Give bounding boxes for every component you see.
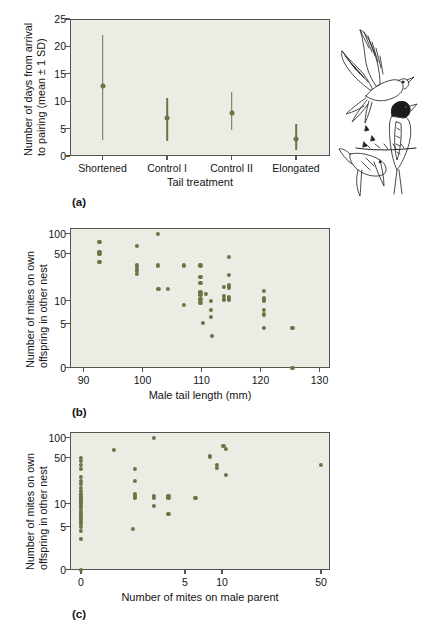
panel-c-y-axis-title-line1: Number of mites on own — [24, 453, 37, 570]
panel-a-ytick-20: 20 — [40, 40, 66, 52]
panel-a-xtick-elongated: Elongated — [272, 162, 319, 174]
panel-a-letter: (a) — [72, 196, 86, 208]
panel-c-y-axis-title-line2: offspring in other nest — [37, 453, 50, 570]
panel-a-ytick-mark-25 — [65, 18, 70, 19]
panel-c-ytick-mark-0 — [65, 569, 70, 570]
panel-a-xtick-mark-1 — [102, 156, 103, 160]
panel-a-xtick-mark-2 — [166, 156, 167, 160]
panel-a-xtick-shortened: Shortened — [78, 162, 126, 174]
panel-c-xtick-50: 50 — [315, 576, 327, 588]
data-point — [290, 366, 294, 370]
panel-a-ytick-5: 5 — [46, 123, 66, 135]
panel-a-x-axis-title: Tail treatment — [167, 176, 233, 188]
panel-b-letter: (b) — [72, 406, 87, 418]
panel-c-xtick-5: 5 — [182, 576, 188, 588]
panel-a-mean-control-i — [165, 115, 170, 120]
panel-b-xtick-130: 130 — [311, 374, 329, 386]
panel-b-xtick-110: 110 — [193, 374, 210, 386]
panel-b-ytick-mark-100 — [65, 233, 70, 234]
panel-b-ytick-5: 5 — [40, 318, 66, 330]
panel-a-ytick-mark-15 — [65, 73, 70, 74]
panel-a-mean-shortened — [100, 84, 105, 89]
panel-c-ytick-10: 10 — [40, 498, 66, 510]
panel-b-xtick-mark-130 — [319, 368, 320, 372]
panel-a-ytick-25: 25 — [40, 13, 66, 25]
panel-a-y-axis-title-line1: Number of days from arrival — [22, 23, 35, 156]
panel-c-ytick-50: 50 — [40, 452, 66, 464]
panel-b-ytick-mark-50 — [65, 253, 70, 254]
panel-c-ytick-5: 5 — [40, 521, 66, 533]
panel-c-xtick-10: 10 — [216, 576, 228, 588]
panel-b-xtick-90: 90 — [78, 374, 90, 386]
panel-c-ytick-0: 0 — [40, 564, 66, 576]
panel-b-ytick-mark-5 — [65, 323, 70, 324]
figure-container: Number of days from arrival to pairing (… — [0, 0, 424, 631]
panel-a-ytick-mark-5 — [65, 128, 70, 129]
panel-b-y-axis-title-line2: offspring in other nest — [37, 251, 50, 368]
panel-c-xtick-0: 0 — [78, 576, 84, 588]
panel-b-xtick-mark-100 — [142, 368, 143, 372]
panel-a-ytick-10: 10 — [40, 95, 66, 107]
panel-a-mean-control-ii — [229, 111, 234, 116]
panel-a-ytick-mark-10 — [65, 101, 70, 102]
panel-a-xtick-control-ii: Control II — [210, 162, 253, 174]
panel-c-ytick-mark-10 — [65, 503, 70, 504]
panel-c-ytick-mark-100 — [65, 437, 70, 438]
swallow-drawing-svg — [336, 18, 422, 198]
panel-c-plot-area — [70, 432, 330, 570]
panel-c-xtick-mark-5 — [184, 570, 185, 574]
data-point — [79, 568, 83, 572]
panel-b-ytick-50: 50 — [40, 248, 66, 260]
panel-a-ytick-mark-0 — [65, 155, 70, 156]
panel-a-xtick-mark-4 — [295, 156, 296, 160]
panel-c-xtick-mark-10 — [221, 570, 222, 574]
panel-a-xtick-mark-3 — [231, 156, 232, 160]
panel-a-mean-elongated — [294, 136, 299, 141]
panel-a-plot-area — [70, 19, 330, 156]
panel-b-ytick-mark-10 — [65, 300, 70, 301]
panel-b-xtick-100: 100 — [134, 374, 152, 386]
panel-b-ytick-mark-0 — [65, 367, 70, 368]
panel-b-y-axis-title-line1: Number of mites on own — [24, 251, 37, 368]
panel-c-letter: (c) — [72, 608, 86, 620]
panel-b-y-axis-title: Number of mites on own offspring in othe… — [24, 251, 50, 368]
panel-b-xtick-mark-110 — [201, 368, 202, 372]
panel-c-ytick-100: 100 — [34, 432, 66, 444]
panel-c-y-axis-title: Number of mites on own offspring in othe… — [24, 453, 50, 570]
barn-swallow-illustration — [336, 18, 422, 198]
panel-a-ytick-mark-20 — [65, 46, 70, 47]
panel-a-xtick-control-i: Control I — [147, 162, 187, 174]
panel-b-ytick-10: 10 — [40, 295, 66, 307]
panel-b-xtick-mark-90 — [83, 368, 84, 372]
panel-b-ytick-0: 0 — [40, 362, 66, 374]
panel-c-xtick-mark-50 — [320, 570, 321, 574]
panel-b-xtick-mark-120 — [260, 368, 261, 372]
panel-c-x-axis-title: Number of mites on male parent — [121, 591, 278, 603]
panel-b-x-axis-title: Male tail length (mm) — [149, 389, 252, 401]
panel-c-ytick-mark-5 — [65, 526, 70, 527]
panel-a-ytick-0: 0 — [46, 150, 66, 162]
panel-b-ytick-100: 100 — [34, 228, 66, 240]
panel-c-ytick-mark-50 — [65, 457, 70, 458]
panel-a-ytick-15: 15 — [40, 68, 66, 80]
panel-b-xtick-120: 120 — [252, 374, 270, 386]
